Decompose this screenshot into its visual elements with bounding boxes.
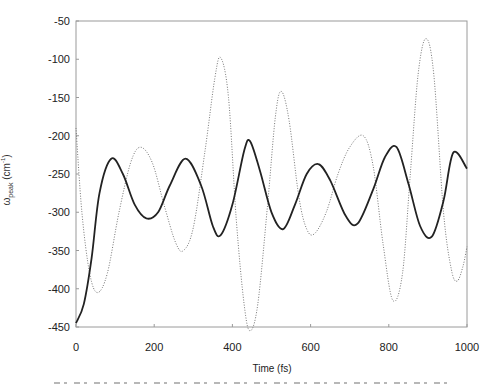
y-axis-label-subscript: peak — [7, 183, 14, 198]
y-tick-label: -300 — [24, 206, 70, 218]
y-axis-label-unit-close: ) — [1, 154, 12, 157]
plot-area — [0, 0, 483, 387]
y-tick-label: -200 — [24, 130, 70, 142]
y-tick-label: -350 — [24, 245, 70, 257]
caption-text-fragment — [54, 382, 454, 384]
solid-series-line — [76, 140, 467, 323]
x-tick-label: 200 — [134, 341, 174, 353]
x-tick-label: 400 — [212, 341, 252, 353]
x-axis-label: Time (fs) — [222, 363, 322, 374]
y-tick-label: -250 — [24, 168, 70, 180]
x-tick-label: 1000 — [447, 341, 483, 353]
chart-figure: -50-100-150-200-250-300-350-400-450 0200… — [0, 0, 483, 387]
y-tick-label: -450 — [24, 321, 70, 333]
y-axis-label: ωpeak (cm-1) — [0, 150, 14, 210]
y-axis-label-superscript: -1 — [0, 158, 6, 163]
y-axis-label-unit-open: (cm — [1, 163, 12, 182]
y-axis-label-symbol: ω — [1, 198, 12, 206]
y-tick-label: -100 — [24, 53, 70, 65]
x-tick-label: 800 — [369, 341, 409, 353]
y-tick-label: -50 — [24, 15, 70, 27]
plot-frame — [76, 21, 467, 327]
figure-caption-cropped — [0, 382, 483, 387]
y-tick-label: -400 — [24, 283, 70, 295]
y-tick-label: -150 — [24, 92, 70, 104]
x-tick-label: 600 — [291, 341, 331, 353]
x-tick-label: 0 — [56, 341, 96, 353]
